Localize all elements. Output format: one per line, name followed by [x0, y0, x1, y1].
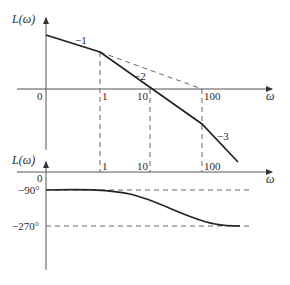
- phase-m270-label: −270°: [12, 220, 39, 232]
- phase-ylabel: L(ω): [11, 153, 35, 167]
- magnitude-plot: L(ω) ω 0 1 10 100 −1 −2 −3: [11, 12, 274, 172]
- phase-tick-1: 1: [102, 160, 108, 172]
- slope-label-2: −2: [134, 70, 146, 82]
- phase-tick-100: 100: [204, 160, 221, 172]
- phase-plot: L(ω) ω 0 1 10 100 −90° −270°: [11, 153, 274, 270]
- phase-m90-label: −90°: [18, 184, 40, 196]
- slope-label-1: −1: [75, 34, 87, 46]
- slope-label-3: −3: [217, 130, 229, 142]
- phase-origin-label: 0: [37, 172, 43, 184]
- bode-diagram: L(ω) ω 0 1 10 100 −1 −2 −3 L(ω) ω 0 1 10…: [0, 0, 290, 285]
- mag-xlabel: ω: [266, 89, 274, 103]
- phase-tick-10: 10: [137, 160, 149, 172]
- slope-1-extension: [100, 52, 202, 89]
- tick-100: 100: [204, 90, 221, 102]
- tick-1: 1: [102, 90, 108, 102]
- phase-xlabel: ω: [266, 172, 274, 186]
- mag-origin-label: 0: [37, 90, 43, 102]
- phase-curve: [46, 190, 240, 226]
- tick-10: 10: [137, 90, 149, 102]
- mag-ylabel: L(ω): [11, 12, 35, 26]
